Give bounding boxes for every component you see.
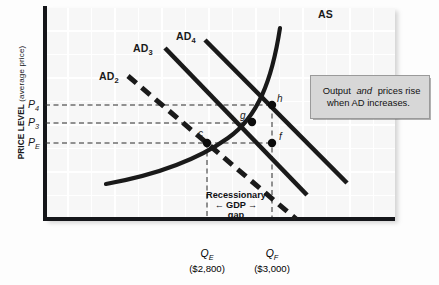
point-f xyxy=(268,139,276,147)
price-tick-p3: P3 xyxy=(28,116,39,131)
gap-title: Recessionary xyxy=(186,190,286,200)
point-c xyxy=(203,139,211,147)
quantity-tick-qf: QF ($3,000) xyxy=(232,243,312,274)
point-label-g: g xyxy=(240,110,246,121)
y-axis-title: PRICE LEVEL (average price) xyxy=(17,28,26,178)
gap-arrow-right-icon: → xyxy=(248,200,257,210)
callout-box: Output and prices rise when AD increases… xyxy=(310,75,430,119)
y-axis-title-sub: (average price) xyxy=(17,46,26,102)
gap-middle-row: ← GDP → xyxy=(186,200,286,210)
callout-text-italic: and xyxy=(356,85,372,96)
price-tick-pe: PE xyxy=(28,136,40,151)
point-label-f: f xyxy=(279,131,282,142)
point-g xyxy=(248,118,256,126)
recessionary-gap-annotation: Recessionary ← GDP → gap xyxy=(186,190,286,220)
ad3-curve-label: AD3 xyxy=(133,42,153,57)
gap-arrow-left-icon: ← xyxy=(215,200,224,210)
gap-label-gdp: GDP xyxy=(226,200,246,210)
as-curve-label: AS xyxy=(318,8,333,20)
gap-label-gap: gap xyxy=(186,210,286,220)
y-axis-title-main: PRICE LEVEL xyxy=(17,104,26,159)
ad4-curve-label: AD4 xyxy=(176,30,196,45)
point-label-c: c xyxy=(198,128,203,139)
point-h xyxy=(268,101,276,109)
callout-text-before: Output xyxy=(320,85,357,96)
quantity-tick-qf-amount: ($3,000) xyxy=(232,263,312,274)
price-tick-p4: P4 xyxy=(28,98,39,113)
ad2-curve-label: AD2 xyxy=(99,70,119,85)
ad-as-diagram: PRICE LEVEL (average price) P4 P3 PE AS … xyxy=(0,0,439,285)
point-label-h: h xyxy=(277,93,283,104)
callout-text: Output and prices rise when AD increases… xyxy=(311,85,429,109)
